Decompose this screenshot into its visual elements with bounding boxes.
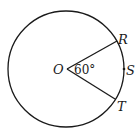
circle-diagram: O 60° R S T [0, 0, 136, 136]
label-O: O [53, 62, 64, 77]
circle [8, 11, 124, 127]
label-angle: 60° [74, 63, 95, 77]
label-R: R [117, 32, 128, 47]
point-S-dot [123, 68, 126, 71]
label-T: T [117, 99, 127, 114]
label-S: S [126, 63, 135, 78]
